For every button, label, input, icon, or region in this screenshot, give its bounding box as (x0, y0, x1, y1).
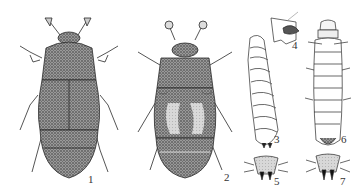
figure-label-3: 3 (274, 134, 280, 145)
figure-1-beetle (20, 18, 118, 178)
figure-5-terminal-segment (244, 156, 288, 180)
figure-label-1: 1 (88, 174, 94, 185)
figure-label-4: 4 (292, 40, 298, 51)
figure-2-beetle (138, 21, 232, 178)
figure-label-6: 6 (341, 134, 347, 145)
figure-label-5: 5 (274, 176, 280, 187)
illustration-plate: 1 2 3 4 5 6 7 (0, 0, 360, 195)
figure-6-larva-dorsal (305, 20, 351, 145)
figure-label-2: 2 (224, 172, 230, 183)
figure-label-7: 7 (340, 176, 346, 187)
plate-drawing (0, 0, 360, 195)
figure-3-larva-lateral (248, 35, 278, 148)
